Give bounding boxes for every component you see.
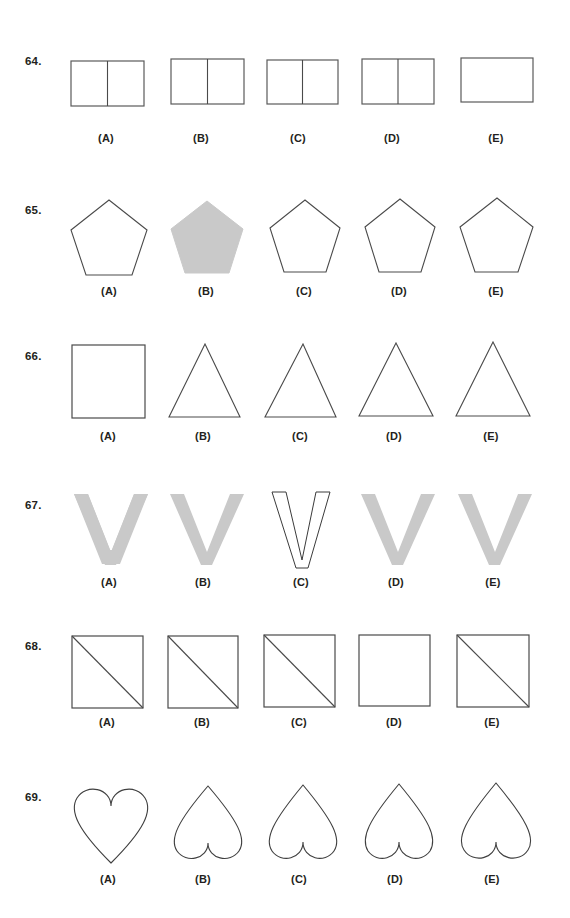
rectangle-with-vertical-divider-icon	[361, 48, 441, 104]
option-label-d: (D)	[369, 285, 429, 297]
option-label-a: (A)	[79, 576, 139, 588]
square-with-diagonal-icon	[70, 632, 156, 716]
option-label-d: (D)	[362, 132, 422, 144]
pentagon-outline-icon	[262, 192, 348, 284]
square-outline-icon	[70, 340, 156, 428]
heart-upright-icon	[66, 780, 158, 872]
rectangle-with-vertical-divider-icon	[70, 48, 150, 104]
rectangle-plain-icon	[460, 48, 540, 104]
option-label-a: (A)	[78, 430, 138, 442]
option-label-c: (C)	[269, 873, 329, 885]
square-with-diagonal-icon	[455, 632, 541, 716]
option-label-e: (E)	[461, 430, 521, 442]
option-label-a: (A)	[77, 716, 137, 728]
pentagon-outline-icon	[453, 192, 539, 284]
option-label-c: (C)	[271, 576, 331, 588]
triangle-outline-icon	[262, 340, 348, 428]
square-with-diagonal-icon	[166, 632, 252, 716]
option-label-a: (A)	[78, 873, 138, 885]
option-label-b: (B)	[176, 285, 236, 297]
row-number: 66.	[25, 350, 42, 362]
option-label-b: (B)	[173, 430, 233, 442]
option-label-b: (B)	[173, 576, 233, 588]
row-number: 67.	[25, 499, 42, 511]
triangle-outline-icon	[453, 340, 539, 428]
rectangle-with-vertical-divider-icon	[266, 48, 346, 104]
v-filled-icon	[355, 488, 441, 574]
pentagon-outline-icon	[357, 192, 443, 284]
v-filled-icon	[452, 488, 538, 574]
v-filled-icon	[164, 488, 250, 574]
test-sheet: 64.	[0, 0, 570, 918]
option-label-d: (D)	[364, 716, 424, 728]
square-with-diagonal-icon	[262, 632, 348, 716]
v-filled-icon	[68, 488, 154, 574]
square-plain-icon	[357, 632, 443, 716]
option-label-e: (E)	[466, 285, 526, 297]
row-number: 64.	[25, 55, 42, 67]
option-label-b: (B)	[171, 132, 231, 144]
heart-inverted-icon	[259, 780, 351, 872]
option-label-c: (C)	[269, 716, 329, 728]
option-label-e: (E)	[462, 716, 522, 728]
triangle-outline-icon	[356, 340, 442, 428]
option-label-c: (C)	[268, 132, 328, 144]
triangle-outline-icon	[166, 340, 252, 428]
option-label-c: (C)	[274, 285, 334, 297]
pentagon-outline-icon	[66, 192, 152, 284]
option-label-e: (E)	[462, 873, 522, 885]
heart-inverted-icon	[355, 780, 447, 872]
option-label-b: (B)	[172, 716, 232, 728]
option-label-a: (A)	[76, 132, 136, 144]
option-label-a: (A)	[79, 285, 139, 297]
option-label-d: (D)	[366, 576, 426, 588]
row-number: 68.	[25, 640, 42, 652]
option-label-d: (D)	[365, 873, 425, 885]
option-label-c: (C)	[270, 430, 330, 442]
option-label-e: (E)	[466, 132, 526, 144]
row-number: 65.	[25, 204, 42, 216]
v-outline-narrow-icon	[258, 488, 344, 574]
pentagon-filled-icon	[164, 192, 250, 284]
option-label-d: (D)	[364, 430, 424, 442]
heart-inverted-icon	[164, 780, 256, 872]
row-number: 69.	[25, 791, 42, 803]
option-label-e: (E)	[463, 576, 523, 588]
heart-inverted-icon	[451, 780, 543, 872]
rectangle-with-vertical-divider-icon	[170, 48, 250, 104]
option-label-b: (B)	[173, 873, 233, 885]
